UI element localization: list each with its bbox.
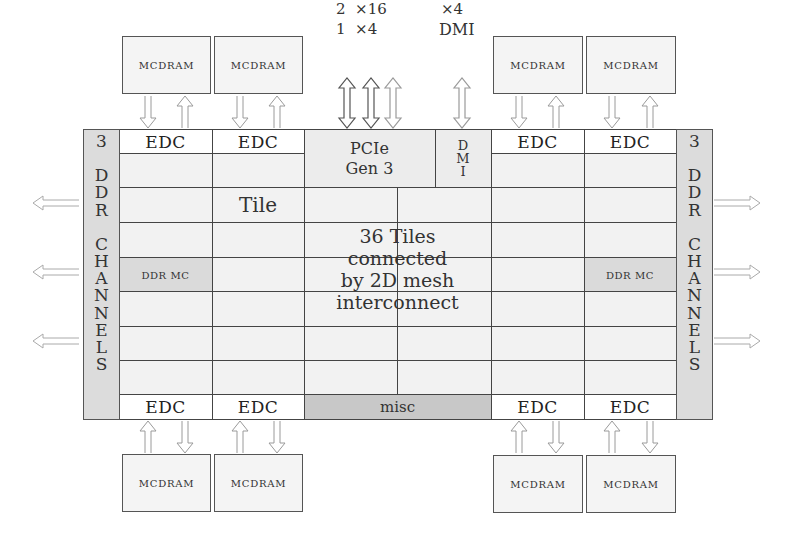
mcdram-top-4: MCDRAM [586,36,676,94]
pcie-block: PCIe Gen 3 [304,130,435,187]
misc-block: misc [304,395,491,419]
grid-line [435,130,436,187]
edc-top-4: EDC [584,130,676,153]
center-text-line: connected [304,247,491,269]
arrow-left-icon [33,334,79,348]
bidirectional-arrow-icon [363,78,379,128]
arrow-down-icon [548,421,564,453]
edc-bottom-1: EDC [119,395,212,419]
edc-top-3: EDC [491,130,584,153]
arrow-down-icon [642,421,658,453]
arrow-up-icon [177,96,193,128]
arrow-up-icon [511,421,527,453]
arrow-up-icon [232,421,248,453]
arrow-right-icon [714,334,760,348]
edc-bottom-2: EDC [212,395,304,419]
pcie-label: PCIe [350,139,389,159]
center-text-line: 36 Tiles [304,225,491,247]
grid-line [584,130,585,419]
arrow-right-icon [714,265,760,279]
edc-bottom-3: EDC [491,395,584,419]
pcie-gen-label: Gen 3 [346,159,394,179]
center-text-line: by 2D mesh [304,269,491,291]
mcdram-top-1: MCDRAM [122,36,211,94]
center-description: 36 Tiles connected by 2D mesh interconne… [304,225,491,313]
ddr-left-char: S [96,356,108,373]
edc-top-2: EDC [212,130,304,153]
ddr-channels-left: 3 D D R C H A N N E L S [83,129,120,420]
edc-top-1: EDC [119,130,212,153]
ddr-channels-right: 3 D D R C H A N N E L S [676,129,713,420]
ddr-right-char: 3 [689,133,700,150]
mcdram-bottom-1: MCDRAM [122,454,211,512]
mcdram-top-2: MCDRAM [214,36,303,94]
arrow-down-icon [177,421,193,453]
mcdram-bottom-2: MCDRAM [214,454,303,512]
center-text-line: interconnect [304,291,491,313]
bidirectional-arrow-icon [454,78,470,128]
arrow-up-icon [604,421,620,453]
arrow-left-icon [33,196,79,210]
ddr-right-char: R [688,202,701,219]
arrow-down-icon [604,96,620,128]
tile-label: Tile [212,193,304,217]
ddr-mc-right: DDR MC [584,258,676,292]
dmi-block: D M I [435,130,491,187]
ddr-mc-left: DDR MC [119,258,212,292]
dmi-lanes-label: ×4 [441,0,463,18]
arrow-up-icon [642,96,658,128]
ddr-left-char: 3 [96,133,107,150]
arrow-down-icon [140,96,156,128]
mcdram-bottom-4: MCDRAM [586,455,676,513]
arrow-up-icon [140,421,156,453]
arrow-right-icon [714,196,760,210]
pcie-lanes-label-2: 1 ×4 [336,20,377,38]
arrow-down-icon [232,96,248,128]
bidirectional-arrow-icon [339,78,355,128]
ddr-right-char: S [689,356,701,373]
arrow-left-icon [33,265,79,279]
arrow-down-icon [269,421,285,453]
dmi-letter-i: I [460,165,465,178]
mcdram-top-3: MCDRAM [493,36,583,94]
arrow-up-icon [548,96,564,128]
grid-line [212,130,213,419]
arrow-up-icon [269,96,285,128]
mcdram-bottom-3: MCDRAM [493,455,583,513]
grid-line [491,130,492,419]
bidirectional-arrow-icon [385,78,401,128]
arrow-down-icon [511,96,527,128]
dmi-label: DMI [439,20,475,39]
edc-bottom-4: EDC [584,395,676,419]
pcie-lanes-label-1: 2 ×16 [336,0,387,18]
ddr-left-char: R [95,202,108,219]
